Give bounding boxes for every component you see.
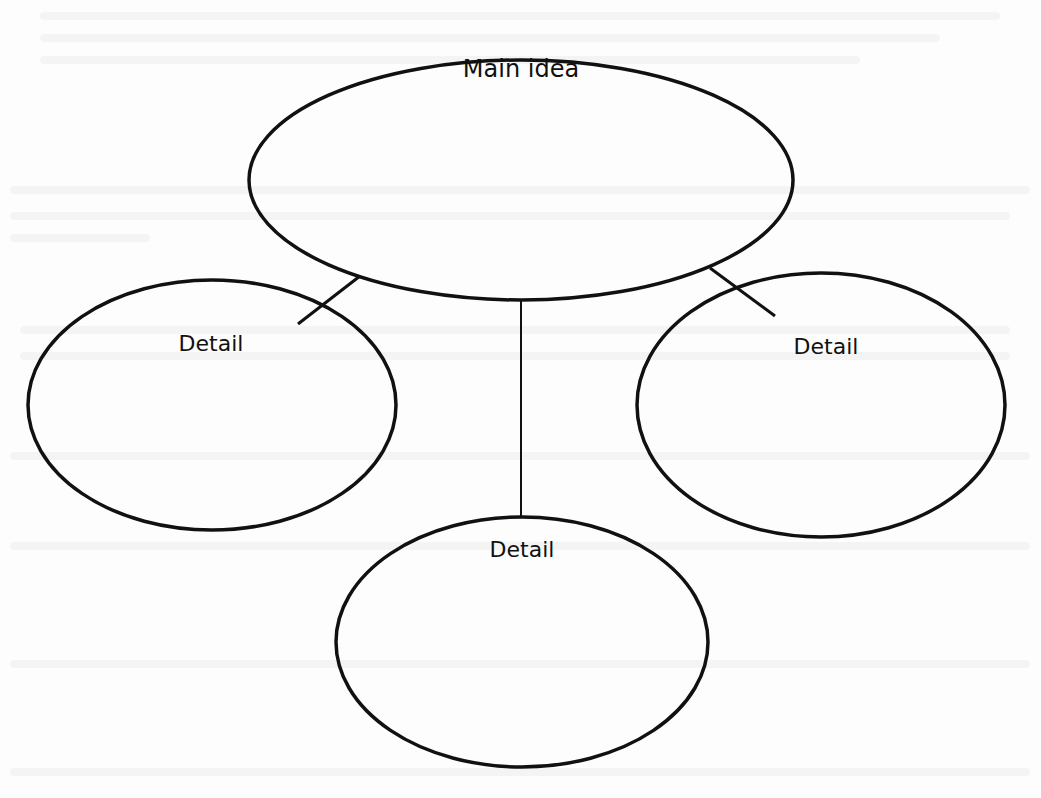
main-idea-ellipse (249, 60, 793, 300)
connector-main-to-left-detail (298, 276, 360, 324)
diagram-svg (0, 0, 1041, 798)
left-detail-label: Detail (179, 331, 244, 356)
main-idea-label: Main idea (463, 55, 579, 83)
bottom-detail-label: Detail (490, 537, 555, 562)
right-detail-label: Detail (794, 334, 859, 359)
left-detail-ellipse (28, 280, 396, 530)
graphic-organizer: Main idea Detail Detail Detail (0, 0, 1041, 798)
connector-main-to-right-detail (710, 268, 775, 316)
right-detail-ellipse (637, 273, 1005, 537)
